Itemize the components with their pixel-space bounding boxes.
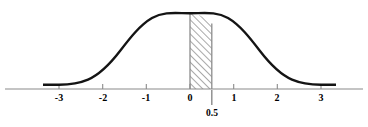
x-tick-label-2: 2 — [275, 92, 280, 103]
x-tick-label-neg3: -3 — [55, 92, 63, 103]
x-tick-label-neg1: -1 — [142, 92, 150, 103]
x-tick-label-neg2: -2 — [99, 92, 107, 103]
x-tick-label-3: 3 — [319, 92, 324, 103]
x-tick-label-zero: 0 — [188, 92, 193, 103]
x-tick-label-1: 1 — [232, 92, 237, 103]
normal-curve-plot — [0, 0, 368, 127]
normal-distribution-chart: -3 -2 -1 0 1 2 3 0.5 — [0, 0, 368, 127]
half-value-label: 0.5 — [206, 108, 218, 118]
x-axis-ticks — [59, 84, 321, 89]
shaded-area-group — [188, 10, 216, 92]
